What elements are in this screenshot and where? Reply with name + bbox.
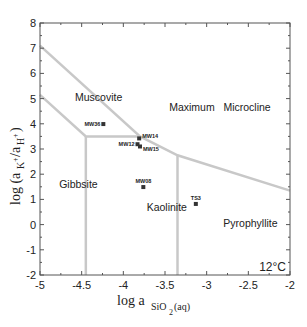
region-label: Pyrophyllite: [223, 217, 277, 229]
x-tick-label: -3.5: [156, 279, 175, 291]
x-tick-label: -3: [202, 279, 212, 291]
y-tick-label: 4: [30, 118, 36, 130]
sample-label: MW36: [84, 121, 100, 127]
region-label: Kaolinite: [147, 201, 187, 213]
boundary-line: [40, 46, 290, 191]
svg-text:+: +: [11, 133, 20, 138]
phase-boundaries: [40, 46, 290, 275]
sample-label: TS3: [191, 195, 201, 201]
x-tick-label: -4: [118, 279, 128, 291]
region-label: Muscovite: [75, 91, 122, 103]
y-tick-label: 1: [30, 193, 36, 205]
x-axis-label: log a SiO 2 (aq): [117, 293, 190, 317]
axis-ticks: -5-4.5-4-3.5-3-2.5-2876543210-1-2: [26, 17, 295, 291]
sample-marker: [141, 185, 145, 189]
y-tick-label: -2: [26, 269, 36, 281]
sample-label: MW15: [143, 146, 159, 152]
sample-label: MW14: [142, 133, 159, 139]
x-tick-label: -5: [35, 279, 45, 291]
x-tick-label: -4.5: [72, 279, 91, 291]
y-tick-label: 3: [30, 143, 36, 155]
svg-text:(aq): (aq): [174, 301, 190, 313]
x-tick-label: -2.5: [239, 279, 258, 291]
svg-text:): ): [8, 127, 24, 132]
y-tick-label: 2: [30, 168, 36, 180]
y-tick-label: 5: [30, 93, 36, 105]
y-axis-label: log (a K + /a H + ): [8, 127, 26, 205]
svg-text:log a: log a: [117, 293, 145, 308]
x-tick-label: -2: [285, 279, 295, 291]
sample-marker: [138, 144, 142, 148]
stability-diagram: -5-4.5-4-3.5-3-2.5-2876543210-1-2 Muscov…: [0, 0, 307, 327]
region-label: Maximum Microcline: [169, 101, 271, 113]
y-tick-label: 6: [30, 67, 36, 79]
svg-text:log (a: log (a: [8, 172, 24, 205]
region-label: Gibbsite: [59, 178, 98, 190]
sample-marker: [137, 136, 141, 140]
sample-marker: [101, 122, 105, 126]
svg-text:2: 2: [169, 308, 173, 317]
sample-label: MW08: [135, 178, 151, 184]
sample-marker: [194, 202, 198, 206]
y-tick-label: 8: [30, 17, 36, 29]
y-tick-label: 0: [30, 219, 36, 231]
svg-text:SiO: SiO: [151, 301, 167, 312]
sample-label: MW12: [119, 141, 135, 147]
region-labels: MuscoviteMaximum MicroclineGibbsiteKaoli…: [59, 91, 278, 230]
y-tick-label: -1: [26, 244, 36, 256]
svg-text:/a: /a: [8, 146, 23, 157]
y-tick-label: 7: [30, 42, 36, 54]
sample-points: MW36MW14MW12MW15MW08TS3: [84, 121, 200, 206]
temperature-annotation: 12°C: [259, 260, 286, 274]
